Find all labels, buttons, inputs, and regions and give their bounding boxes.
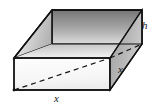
open-box-illustration [0, 0, 158, 112]
front-face [14, 58, 110, 90]
geometry-figure: h x x [0, 0, 158, 112]
vertex-dot-bottom-left [13, 89, 16, 92]
label-height-h: h [142, 20, 148, 31]
label-base-depth-x: x [118, 64, 123, 75]
label-base-width-x: x [54, 93, 59, 104]
